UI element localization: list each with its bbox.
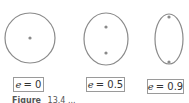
label-value: = 0 (24, 79, 42, 90)
label-value: = 0.5 (96, 79, 123, 90)
label-variable: e (148, 81, 154, 92)
label-variable: e (16, 79, 22, 90)
focus-point-bottom (167, 60, 170, 63)
circle-e0 (5, 13, 55, 63)
focus-point-top (104, 25, 107, 28)
caption-text: 13.4 ... (48, 96, 76, 103)
figure-caption: Figure 13.4 ... (12, 97, 76, 103)
focus-point-top (167, 15, 170, 18)
focus-point (28, 36, 31, 39)
label-variable: e (88, 79, 94, 90)
ellipse-outline (84, 13, 128, 65)
figure-number: Figure (12, 96, 41, 103)
ellipse-e09 (155, 14, 183, 64)
ellipse-e05 (84, 13, 128, 65)
label-e05: e = 0.5 (86, 77, 125, 92)
label-e09: e = 0.9 (147, 79, 184, 94)
label-e0: e = 0 (13, 77, 44, 92)
label-value: = 0.9 (156, 81, 183, 92)
ellipse-outline (155, 14, 183, 64)
focus-point-bottom (104, 51, 107, 54)
